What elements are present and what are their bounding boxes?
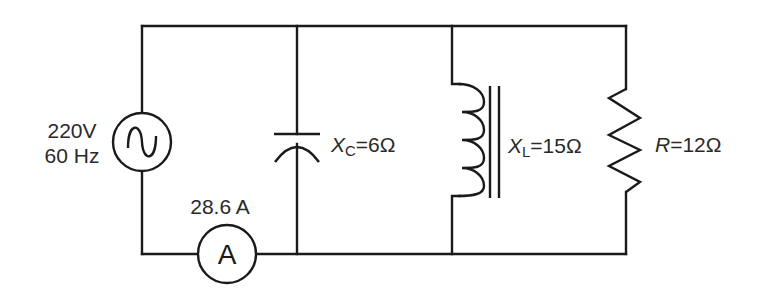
inductor-wire-bottom — [452, 196, 460, 254]
inductor-subscript: L — [522, 143, 530, 160]
ac-source — [113, 113, 171, 171]
capacitor-subscript: C — [345, 142, 356, 159]
inductor-label: XL=15Ω — [507, 134, 582, 160]
inductor-value: =15Ω — [530, 134, 581, 157]
ammeter: A — [198, 225, 256, 283]
capacitor-symbol: X — [330, 133, 346, 156]
inductor — [458, 84, 499, 198]
resistor — [609, 89, 640, 192]
inductor-coil — [458, 84, 484, 196]
inductor-symbol: X — [507, 134, 523, 157]
circuit-diagram: 220V 60 Hz A 28.6 A XC=6Ω XL=15Ω R=12Ω — [0, 0, 765, 294]
resistor-symbol: R — [655, 133, 670, 156]
resistor-label: R=12Ω — [655, 133, 722, 156]
ammeter-reading-label: 28.6 A — [190, 195, 250, 218]
inductor-wire-top — [452, 26, 460, 84]
resistor-zigzag — [609, 89, 640, 192]
source-voltage-label: 220V — [47, 119, 96, 142]
capacitor-label: XC=6Ω — [330, 133, 396, 159]
capacitor-value: =6Ω — [356, 133, 396, 156]
resistor-value: =12Ω — [670, 133, 721, 156]
ammeter-letter: A — [218, 239, 237, 270]
source-frequency-label: 60 Hz — [45, 144, 100, 167]
